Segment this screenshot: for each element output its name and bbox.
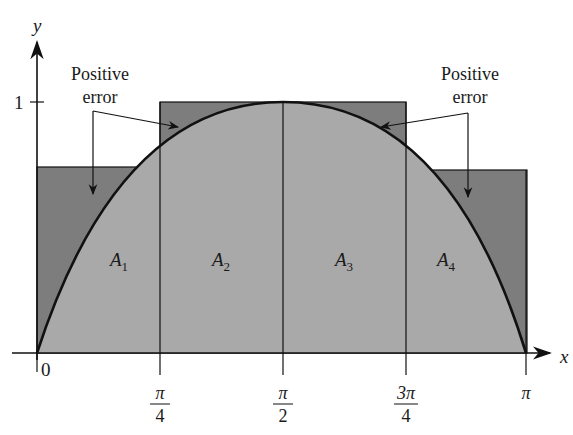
x-tick-pi-over-2: π 2 [273,383,293,426]
svg-text:3π: 3π [396,383,416,403]
svg-text:π: π [155,383,165,403]
x-axis-label: x [559,346,569,367]
x-tick-3pi-over-4: 3π 4 [394,383,418,426]
x-tick-pi-over-4: π 4 [150,383,170,426]
svg-text:error: error [83,87,118,107]
svg-text:4: 4 [402,406,411,426]
svg-text:4: 4 [156,406,165,426]
origin-label: 0 [41,359,51,380]
svg-text:π: π [278,383,288,403]
svg-text:Positive: Positive [441,64,499,84]
svg-text:error: error [453,87,488,107]
area-under-curve [37,102,526,353]
diagram-canvas: y x 1 0 π 4 π 2 3π 4 π A1 A2 A3 A4 Posit… [0,0,573,435]
x-tick-pi: π [521,383,531,403]
y-tick-label: 1 [14,92,24,113]
y-axis-label: y [31,15,42,36]
svg-text:2: 2 [279,406,288,426]
svg-text:Positive: Positive [71,64,129,84]
svg-text:π: π [521,383,531,403]
